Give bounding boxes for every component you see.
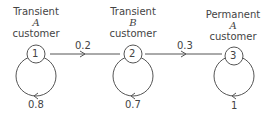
- self-loop-label-3: 1: [231, 100, 237, 111]
- state-label-3: Permanent A customer: [200, 9, 266, 42]
- state-id-3: 3: [230, 50, 236, 61]
- transition-label-1-2: 0.2: [75, 40, 91, 51]
- state-id-2: 2: [129, 48, 135, 59]
- state-label-1: Transient A customer: [6, 6, 66, 39]
- transition-label-2-3: 0.3: [177, 40, 193, 51]
- state-id-1: 1: [32, 48, 38, 59]
- state-label-2: Transient B customer: [103, 6, 163, 39]
- self-loop-label-2: 0.7: [125, 99, 141, 110]
- self-loop-label-1: 0.8: [28, 99, 44, 110]
